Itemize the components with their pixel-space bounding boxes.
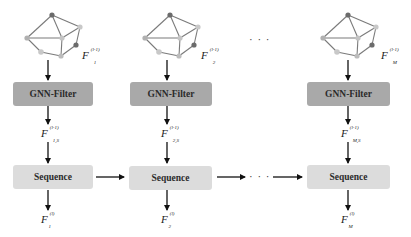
filtered-label-m: F(l-1)M,S — [341, 128, 365, 141]
sequence-box-2: Sequence — [129, 166, 212, 190]
graph-label-2: F(l-1)2 — [201, 50, 219, 63]
output-label-1: F(l)1 — [41, 214, 55, 227]
graph-ellipsis: · · · — [249, 33, 271, 45]
output-label-m: F(l)M — [341, 214, 357, 227]
graph-label-1: F(l-1)1 — [82, 50, 100, 63]
graph-2 — [142, 12, 200, 58]
output-label-2: F(l)2 — [161, 214, 175, 227]
graph-label-m: F(l-1)M — [381, 50, 401, 63]
sequence-box-m: Sequence — [307, 165, 390, 189]
diagram-lines — [0, 0, 411, 237]
graph-1 — [24, 12, 82, 58]
gnn-filter-box-m: GNN-Filter — [307, 82, 390, 106]
gnn-filter-box-1: GNN-Filter — [13, 82, 93, 106]
sequence-ellipsis: · · · — [249, 170, 271, 182]
graph-m — [320, 12, 378, 58]
filtered-label-1: F(l-1)1,S — [41, 128, 63, 141]
gnn-filter-box-2: GNN-Filter — [130, 82, 212, 106]
filtered-label-2: F(l-1)2,S — [161, 128, 183, 141]
sequence-box-1: Sequence — [13, 165, 93, 189]
